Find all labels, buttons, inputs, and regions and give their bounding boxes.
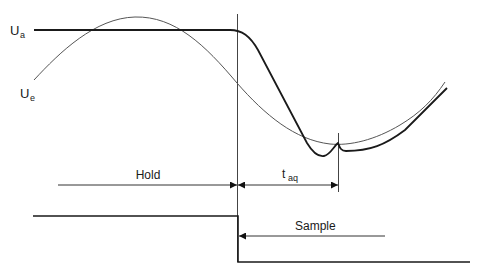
sample-interval: Sample	[239, 219, 385, 236]
acquisition-time-interval: t aq	[238, 167, 338, 185]
control-step-signal	[33, 216, 470, 262]
input-signal-ue-curve	[34, 17, 445, 144]
output-signal-ua-curve	[34, 30, 447, 156]
ue-label-main: U	[20, 86, 29, 101]
sample-label: Sample	[295, 219, 336, 233]
ue-label: U e	[20, 86, 35, 103]
hold-interval: Hold	[58, 168, 237, 185]
ua-label-main: U	[10, 23, 19, 38]
sample-hold-diagram: U a U e Hold t aq Sample	[0, 0, 483, 276]
ue-label-sub: e	[30, 93, 35, 103]
ua-label: U a	[10, 23, 25, 40]
ua-label-sub: a	[20, 30, 25, 40]
taq-label-sub: aq	[288, 173, 298, 183]
taq-label-main: t	[282, 167, 286, 181]
hold-label: Hold	[136, 168, 161, 182]
